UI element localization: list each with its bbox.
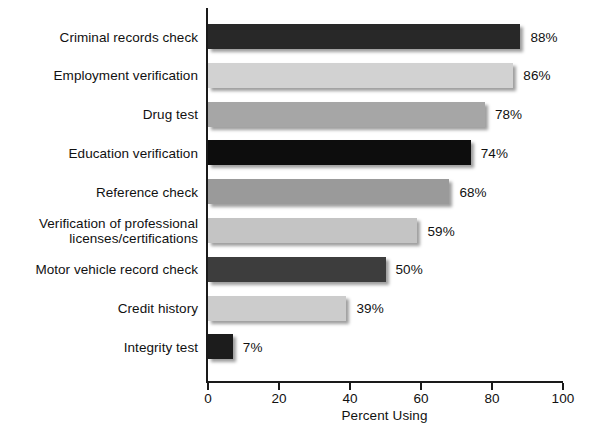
bar <box>208 179 449 204</box>
bar-row: Employment verification86% <box>0 63 590 89</box>
x-axis-tick <box>349 383 351 390</box>
bar <box>208 296 346 321</box>
bar <box>208 102 485 127</box>
category-label: Education verification <box>69 140 198 166</box>
category-label: Integrity test <box>124 334 198 360</box>
bar-value-label: 88% <box>530 24 557 50</box>
bar <box>208 140 471 165</box>
x-axis-tick <box>278 383 280 390</box>
bar-value-label: 7% <box>243 334 263 360</box>
bar <box>208 63 513 88</box>
bar-row: Reference check68% <box>0 179 590 205</box>
bar-value-label: 39% <box>356 296 383 322</box>
x-axis-tick <box>491 383 493 390</box>
x-axis-tick-label: 0 <box>204 391 212 406</box>
x-axis-tick <box>562 383 564 390</box>
bar-value-label: 78% <box>495 102 522 128</box>
x-axis-tick-label: 20 <box>271 391 286 406</box>
bar-row: Education verification74% <box>0 140 590 166</box>
bar-value-label: 50% <box>396 257 423 283</box>
x-axis-line <box>206 381 563 383</box>
category-label: Motor vehicle record check <box>35 257 198 283</box>
x-axis-tick-label: 100 <box>552 391 575 406</box>
x-axis-tick-label: 60 <box>413 391 428 406</box>
bar-value-label: 59% <box>427 218 454 244</box>
x-axis-tick-label: 40 <box>342 391 357 406</box>
category-label: Reference check <box>96 179 198 205</box>
bar <box>208 24 520 49</box>
bar-value-label: 86% <box>523 63 550 89</box>
bar-row: Integrity test7% <box>0 334 590 360</box>
bar-chart: Criminal records check88%Employment veri… <box>0 0 590 435</box>
bar-row: Motor vehicle record check50% <box>0 257 590 283</box>
category-label: Drug test <box>143 102 198 128</box>
category-label: Employment verification <box>54 63 198 89</box>
x-axis-tick-label: 80 <box>484 391 499 406</box>
bar <box>208 334 233 359</box>
category-label: Verification of professional licenses/ce… <box>39 218 198 244</box>
bar <box>208 257 386 282</box>
bar-row: Verification of professional licenses/ce… <box>0 218 590 244</box>
bar <box>208 218 417 243</box>
bar-row: Criminal records check88% <box>0 24 590 50</box>
bar-row: Credit history39% <box>0 296 590 322</box>
x-axis-tick <box>207 383 209 390</box>
bar-value-label: 74% <box>481 140 508 166</box>
category-label: Criminal records check <box>60 24 198 50</box>
bar-row: Drug test78% <box>0 102 590 128</box>
category-label: Credit history <box>118 296 198 322</box>
x-axis-tick <box>420 383 422 390</box>
bar-value-label: 68% <box>459 179 486 205</box>
x-axis-title: Percent Using <box>206 408 563 423</box>
